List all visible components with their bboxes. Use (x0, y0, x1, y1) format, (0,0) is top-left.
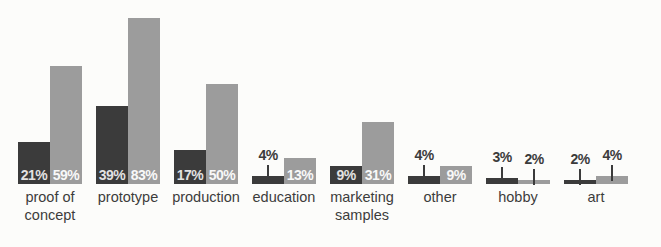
category-label: education (239, 188, 329, 228)
callout-tick-line (267, 165, 269, 181)
bar-group: 21%59%proof of concept (18, 66, 82, 228)
callout-tick-line (423, 165, 425, 181)
bar-group: 17%50%production (174, 84, 238, 228)
value-callout-label: 2% (570, 152, 589, 166)
bar-column: 83% (128, 18, 160, 184)
bar-group: 4%9%other (408, 148, 472, 228)
value-callout-label: 3% (492, 150, 511, 164)
callout-tick-line (533, 169, 535, 185)
value-inside-label: 83% (123, 168, 165, 182)
light-series-bar: 31% (362, 122, 394, 184)
bar-column: 50% (206, 84, 238, 184)
category-label: production (161, 188, 251, 228)
bar-group: 9%31%marketing samples (330, 122, 394, 228)
value-inside-label: 9% (435, 168, 477, 182)
bar-pair: 17%50% (174, 84, 238, 184)
bar-group: 2%4%art (564, 148, 628, 228)
bar-column: 9% (440, 166, 472, 184)
bar-pair: 21%59% (18, 66, 82, 184)
value-inside-label: 59% (45, 168, 87, 182)
light-series-bar: 59% (50, 66, 82, 184)
bar-pair: 9%31% (330, 122, 394, 184)
category-label: other (395, 188, 485, 228)
category-label: prototype (83, 188, 173, 228)
bar-column: 2% (518, 152, 550, 184)
bar-pair: 2%4% (564, 148, 628, 184)
value-inside-label: 50% (201, 168, 243, 182)
bar-pair: 3%2% (486, 150, 550, 184)
bar-column: 3% (486, 150, 518, 184)
value-callout-label: 4% (602, 148, 621, 162)
bar-column: 2% (564, 152, 596, 184)
grouped-bar-chart: 21%59%proof of concept39%83%prototype17%… (0, 0, 661, 247)
bar-pair: 39%83% (96, 18, 160, 184)
bar-column: 31% (362, 122, 394, 184)
callout-tick-line (579, 169, 581, 185)
category-label: proof of concept (5, 188, 95, 228)
bar-column: 4% (596, 148, 628, 184)
bar-pair: 4%13% (252, 148, 316, 184)
light-series-bar: 83% (128, 18, 160, 184)
bar-group: 39%83%prototype (96, 18, 160, 228)
value-inside-label: 13% (279, 168, 321, 182)
bar-group: 3%2%hobby (486, 150, 550, 228)
value-callout-label: 4% (258, 148, 277, 162)
callout-tick-line (501, 167, 503, 183)
value-callout-label: 4% (414, 148, 433, 162)
category-label: marketing samples (317, 188, 407, 228)
light-series-bar: 9% (440, 166, 472, 184)
category-label: hobby (473, 188, 563, 228)
bar-group: 4%13%education (252, 148, 316, 228)
category-label: art (551, 188, 641, 228)
bar-groups-container: 21%59%proof of concept39%83%prototype17%… (18, 18, 628, 228)
bar-column: 59% (50, 66, 82, 184)
value-callout-label: 2% (524, 152, 543, 166)
light-series-bar: 50% (206, 84, 238, 184)
bar-column: 13% (284, 158, 316, 184)
value-inside-label: 31% (357, 168, 399, 182)
callout-tick-line (611, 165, 613, 181)
bar-pair: 4%9% (408, 148, 472, 184)
light-series-bar: 13% (284, 158, 316, 184)
